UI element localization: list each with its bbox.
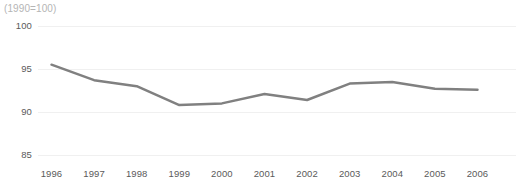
- data-line-series: [52, 65, 478, 105]
- x-axis-tick-2000: 2000: [202, 168, 242, 179]
- x-axis-tick-2004: 2004: [372, 168, 412, 179]
- gridlines: [38, 26, 516, 155]
- y-axis-tick-95: 95: [6, 63, 32, 74]
- y-axis-tick-85: 85: [6, 149, 32, 160]
- x-axis-tick-1996: 1996: [32, 168, 72, 179]
- x-axis-tick-1998: 1998: [117, 168, 157, 179]
- y-axis-tick-100: 100: [6, 20, 32, 31]
- x-axis-tick-1999: 1999: [159, 168, 199, 179]
- x-axis-tick-2001: 2001: [245, 168, 285, 179]
- line-chart: (1990=100) 859095100 1996199719981999200…: [0, 0, 522, 189]
- x-axis-tick-1997: 1997: [74, 168, 114, 179]
- x-axis-tick-2005: 2005: [415, 168, 455, 179]
- x-axis-tick-2006: 2006: [458, 168, 498, 179]
- y-axis-tick-90: 90: [6, 106, 32, 117]
- chart-plot-area: [0, 0, 522, 189]
- x-axis-tick-2003: 2003: [330, 168, 370, 179]
- x-axis-tick-2002: 2002: [287, 168, 327, 179]
